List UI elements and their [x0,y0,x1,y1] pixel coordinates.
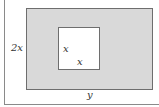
outer-width-label: y [87,90,93,100]
frame-border-bottom [4,104,159,105]
outer-height-label: 2x [11,43,23,53]
inner-side-label-left: x [63,44,69,54]
frame-border-left [4,0,5,105]
inner-side-label-bottom: x [77,57,83,67]
